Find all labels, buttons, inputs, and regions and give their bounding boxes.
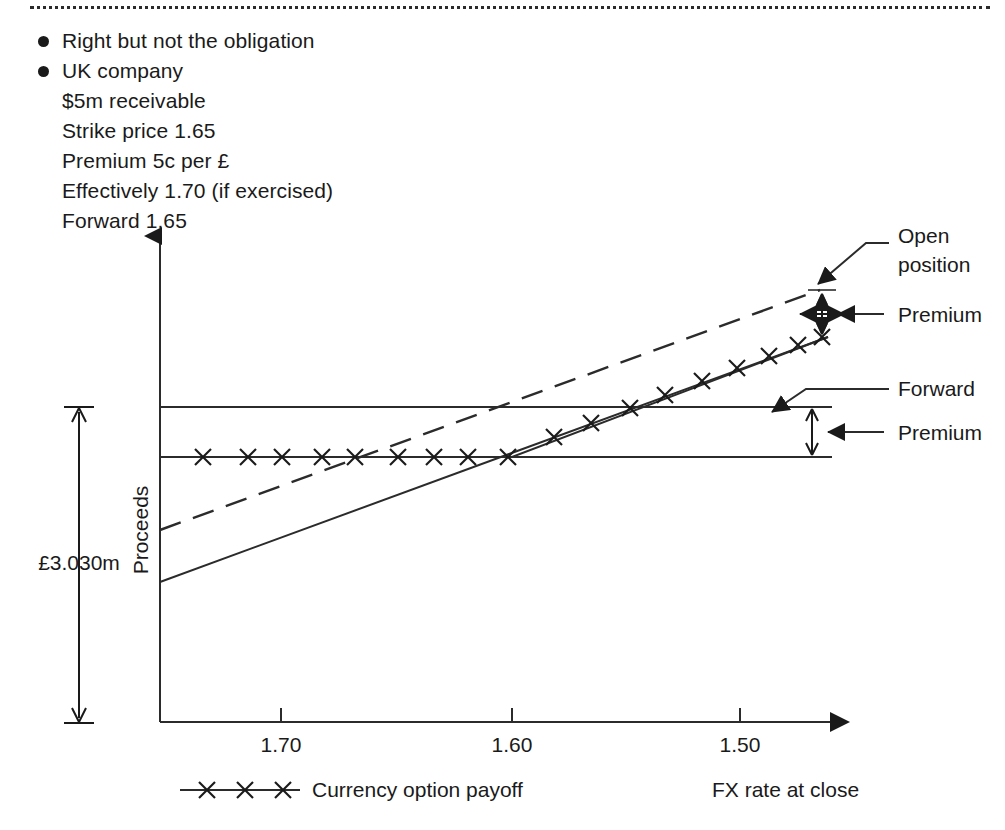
annotation-premium-upper-label: Premium [898, 303, 982, 326]
annotation-forward-label: Forward [898, 377, 975, 400]
x-tick-label: 1.60 [492, 733, 533, 756]
x-tick-label: 1.70 [261, 733, 302, 756]
y-axis-label: Proceeds [129, 486, 152, 575]
legend-label: Currency option payoff [312, 778, 523, 801]
annotation-open-position-label-line2: position [898, 253, 970, 276]
currency-option-payoff-chart: 1.70 1.60 1.50 Proceeds FX rate at close [0, 0, 1005, 830]
x-tick-label: 1.50 [720, 733, 761, 756]
series-open-position-dashed [160, 290, 820, 530]
annotation-premium-lower: Premium [806, 409, 982, 455]
annotation-open-position: Open position [818, 224, 970, 284]
annotation-proceeds-measure: £3.030m [38, 407, 120, 723]
measure-label: £3.030m [38, 551, 120, 574]
annotation-premium-lower-label: Premium [898, 421, 982, 444]
chart-legend: Currency option payoff [180, 778, 523, 801]
payoff-x-markers [195, 329, 830, 465]
chart-axes [160, 236, 848, 722]
x-axis-label: FX rate at close [712, 778, 859, 801]
annotation-open-position-label-line1: Open [898, 224, 949, 247]
annotation-premium-upper: Premium [800, 290, 982, 334]
x-axis-ticks: 1.70 1.60 1.50 [261, 708, 761, 756]
series-currency-option-payoff [160, 329, 830, 465]
series-open-position-less-premium-solid [160, 337, 828, 582]
